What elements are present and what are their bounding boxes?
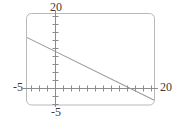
coordinate-plane-figure: 20 -5 -5 20: [0, 0, 182, 120]
x-axis-min-label: -5: [1, 81, 23, 93]
y-axis-min-label: -5: [44, 106, 68, 118]
plotted-line: [26, 37, 156, 101]
x-axis-max-label: 20: [160, 81, 182, 93]
y-axis-max-label: 20: [44, 1, 68, 13]
graph-canvas: [0, 0, 182, 120]
